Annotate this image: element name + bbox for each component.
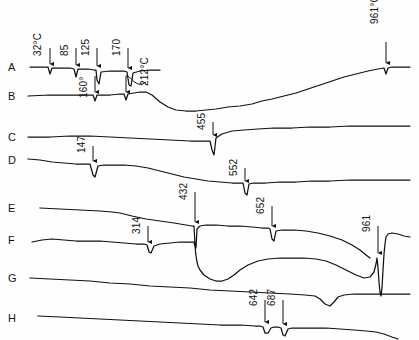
temperature-label-160: 160° bbox=[79, 77, 89, 98]
curve-letter-f: F bbox=[8, 235, 15, 246]
temperature-label-552: 552 bbox=[229, 159, 239, 176]
dta-thermogram-figure: ABCDEFGH 32°C85125170160°212°C4551475524… bbox=[0, 0, 419, 340]
temperature-label-652: 652 bbox=[256, 197, 266, 214]
temperature-label-32: 32°C bbox=[33, 33, 43, 56]
temperature-label-314: 314 bbox=[132, 217, 142, 234]
curve-letter-d: D bbox=[8, 155, 16, 166]
dta-curve-f bbox=[32, 233, 410, 296]
dta-curve-h bbox=[38, 316, 398, 339]
curve-letter-c: C bbox=[8, 132, 16, 143]
curve-lines bbox=[28, 67, 410, 339]
temperature-label-961: 961 bbox=[362, 215, 372, 232]
curve-letter-b: B bbox=[8, 91, 15, 102]
dta-curve-e bbox=[40, 208, 370, 258]
temperature-label-170: 170 bbox=[112, 39, 122, 56]
temperature-label-212: 212°C bbox=[140, 57, 150, 86]
temperature-label-642: 642 bbox=[249, 289, 259, 306]
temperature-label-85: 85 bbox=[60, 44, 70, 56]
curve-letter-a: A bbox=[8, 62, 15, 73]
temperature-label-687: 687 bbox=[267, 289, 277, 306]
temperature-label-125: 125 bbox=[81, 39, 91, 56]
curve-letter-h: H bbox=[8, 313, 16, 324]
dta-curve-d bbox=[28, 159, 410, 195]
curve-letter-g: G bbox=[8, 273, 17, 284]
temperature-label-455: 455 bbox=[197, 113, 207, 130]
curve-letter-e: E bbox=[8, 203, 15, 214]
temperature-label-961: 961°C bbox=[370, 0, 380, 24]
dta-curve-g bbox=[30, 278, 410, 306]
temperature-label-147: 147 bbox=[77, 136, 87, 153]
temperature-label-432: 432 bbox=[179, 183, 189, 200]
